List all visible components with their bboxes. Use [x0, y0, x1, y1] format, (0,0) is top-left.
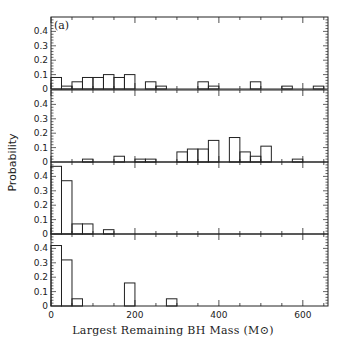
y-tick-label: 0 [42, 84, 48, 94]
histogram-bar [124, 75, 134, 89]
histogram-bar [198, 149, 208, 162]
y-tick-label: 0.1 [34, 215, 48, 225]
y-tick-label: 0.1 [34, 70, 48, 80]
panel-frame [51, 234, 328, 306]
histogram-bar [114, 77, 124, 89]
histogram-bar [250, 82, 260, 89]
x-tick-label: 600 [294, 310, 311, 320]
panel-frame [51, 162, 328, 234]
y-tick-label: 0.4 [34, 243, 49, 253]
histogram-bar [72, 224, 82, 234]
y-tick-label: 0.3 [34, 114, 48, 124]
y-tick-label: 0.1 [34, 143, 48, 153]
y-tick-label: 0.3 [34, 186, 48, 196]
histogram-bar [261, 146, 271, 162]
histogram-bar [166, 299, 176, 306]
panel-3: 00.10.20.30.4 [34, 162, 328, 239]
y-tick-label: 0.2 [34, 128, 48, 138]
histogram-bar [82, 224, 92, 234]
histogram-bar [208, 140, 218, 162]
histogram-bar [229, 138, 239, 162]
x-axis-label: Largest Remaining BH Mass (M⊙) [0, 324, 346, 337]
histogram-bar [156, 86, 166, 89]
panel-1: 00.10.20.30.4 [34, 17, 328, 94]
panel-2: 00.10.20.30.4 [34, 90, 328, 167]
stacked-histogram: 00.10.20.30.400.10.20.30.400.10.20.30.40… [0, 0, 346, 353]
panel-frame [51, 90, 328, 162]
histogram-figure: 00.10.20.30.400.10.20.30.400.10.20.30.40… [0, 0, 346, 353]
histogram-bar [93, 77, 103, 89]
histogram-bar [187, 149, 197, 162]
histogram-bar [198, 82, 208, 89]
histogram-bar [51, 246, 61, 306]
histogram-bar [282, 86, 292, 89]
y-tick-label: 0.2 [34, 200, 48, 210]
x-tick-label: 0 [48, 310, 54, 320]
y-tick-label: 0.4 [34, 26, 49, 36]
histogram-bar [61, 260, 71, 306]
panel-4: 00.10.20.30.4 [34, 234, 328, 311]
y-tick-label: 0.4 [34, 99, 49, 109]
histogram-bar [240, 152, 250, 162]
histogram-bar [82, 77, 92, 89]
histogram-bar [61, 86, 71, 89]
histogram-bar [124, 283, 134, 306]
x-tick-label: 400 [210, 310, 227, 320]
histogram-bar [177, 152, 187, 162]
histogram-bar [103, 75, 113, 89]
histogram-bar [72, 299, 82, 306]
y-tick-label: 0.3 [34, 41, 48, 51]
y-tick-label: 0.4 [34, 171, 49, 181]
histogram-bar [114, 156, 124, 162]
y-tick-label: 0 [42, 229, 48, 239]
histogram-bar [250, 156, 260, 162]
histogram-bar [61, 181, 71, 234]
y-tick-label: 0.2 [34, 272, 48, 282]
histogram-bar [72, 82, 82, 89]
histogram-bar [208, 86, 218, 89]
histogram-bar [145, 82, 155, 89]
y-tick-label: 0.2 [34, 55, 48, 65]
panel-label: (a) [54, 19, 69, 32]
histogram-bar [313, 86, 323, 89]
y-tick-label: 0.3 [34, 258, 48, 268]
y-axis-label: Probability [6, 133, 19, 193]
x-tick-label: 200 [126, 310, 143, 320]
histogram-bar [103, 230, 113, 234]
y-tick-label: 0 [42, 157, 48, 167]
y-tick-label: 0.1 [34, 287, 48, 297]
